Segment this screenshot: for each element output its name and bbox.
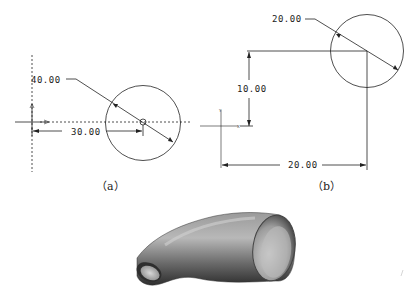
caption-a: （a） — [96, 180, 125, 193]
vertical-dimension: 10.00 — [237, 84, 267, 94]
coordinate-system-icon — [15, 104, 49, 130]
horizontal-dimension: 20.00 — [288, 160, 318, 170]
svg-text:X: X — [237, 124, 240, 129]
figure-b: 20.00 10.00 Y X 20.00 （b） — [200, 14, 404, 193]
diameter-dimension: 40.00 — [31, 75, 61, 85]
offset-dimension: 30.00 — [71, 127, 101, 137]
figure-a: 40.00 30.00 （a） — [15, 55, 192, 193]
coordinate-system-icon: Y X — [200, 108, 240, 168]
diameter-leader — [305, 19, 398, 70]
diameter-dimension: 20.00 — [272, 14, 302, 24]
caption-b: （b） — [312, 180, 341, 193]
circle-sketch — [106, 86, 181, 161]
svg-text:Y: Y — [218, 108, 222, 113]
technical-drawing: 40.00 30.00 （a） 20.00 10.00 — [0, 0, 419, 295]
stray-mark — [401, 270, 403, 276]
pipe-3d-model — [133, 212, 299, 285]
